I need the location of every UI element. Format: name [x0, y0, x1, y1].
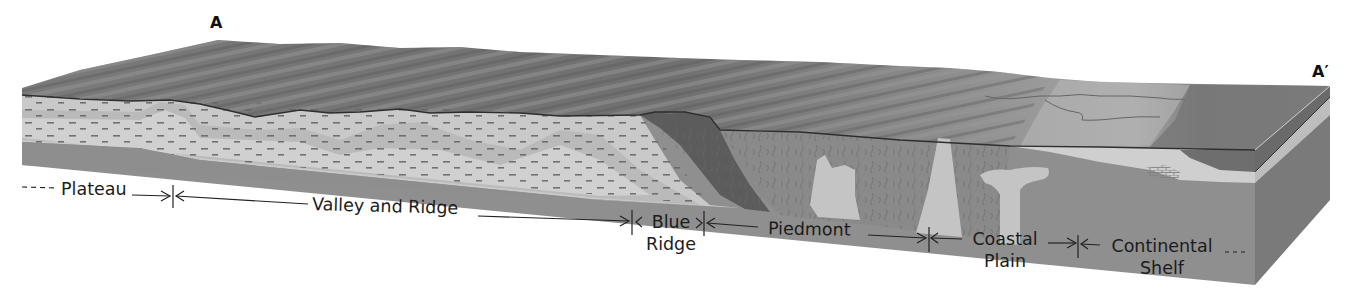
province-label-line: Blue	[644, 214, 698, 232]
province-label-plateau: Plateau	[61, 181, 127, 199]
plateau-dashed-extension	[22, 187, 58, 188]
province-label-valley-and-ridge: Valley and Ridge	[312, 196, 459, 217]
province-label-line: Ridge	[644, 236, 698, 254]
province-label-line: Shelf	[1102, 260, 1222, 278]
province-label-line: Coastal	[964, 231, 1046, 249]
province-label-coastal-plain: Coastal Plain	[964, 231, 1046, 270]
province-label-piedmont: Piedmont	[768, 220, 851, 239]
province-label-continental-shelf: Continental Shelf	[1102, 238, 1222, 277]
section-endpoint-a: A	[210, 15, 222, 31]
section-endpoint-a-prime: A′	[1312, 64, 1329, 80]
province-label-line: Continental	[1102, 238, 1222, 256]
province-label-line: Plain	[964, 253, 1046, 271]
province-label-blue-ridge: Blue Ridge	[644, 214, 698, 253]
